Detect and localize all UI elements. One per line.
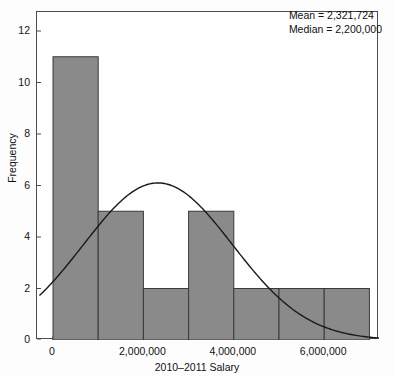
y-tick-label-0: 0	[8, 333, 30, 345]
x-tick-label-0: 0	[49, 345, 55, 357]
stats-annotation: Mean = 2,321,724 Median = 2,200,000	[289, 8, 382, 36]
mean-annotation: Mean = 2,321,724	[289, 8, 382, 22]
histogram-bar	[53, 57, 98, 340]
histogram-bar	[189, 211, 234, 340]
y-axis-title: Frequency	[6, 118, 18, 198]
histogram-bar	[98, 211, 143, 340]
histogram-figure: 0 2 4 6 8 10 12 Frequency	[0, 0, 394, 377]
x-axis-title: 2010–2011 Salary	[0, 361, 394, 373]
histogram-bar	[234, 289, 279, 341]
x-tick-label-4m: 4,000,000	[209, 345, 256, 357]
plot-area	[36, 11, 378, 339]
histogram-bar	[279, 289, 324, 341]
y-tick-label-2: 2	[8, 282, 30, 294]
x-axis-tick-labels: 0 2,000,000 4,000,000 6,000,000	[0, 345, 394, 361]
x-tick-label-6m: 6,000,000	[300, 345, 347, 357]
y-tick-label-12: 12	[8, 24, 30, 36]
median-annotation: Median = 2,200,000	[289, 22, 382, 36]
histogram-bars	[53, 57, 369, 340]
y-axis-ticks	[37, 31, 41, 340]
y-tick-label-10: 10	[8, 76, 30, 88]
histogram-bar	[324, 289, 369, 341]
y-tick-label-4: 4	[8, 230, 30, 242]
plot-canvas	[37, 12, 379, 340]
histogram-bar	[143, 289, 188, 341]
x-tick-label-2m: 2,000,000	[119, 345, 166, 357]
